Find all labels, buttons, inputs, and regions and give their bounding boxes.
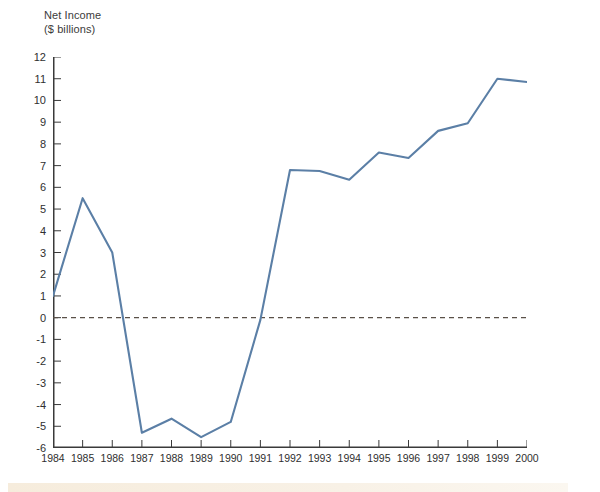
y-tick-label: 10	[18, 95, 46, 106]
line-chart-svg	[53, 57, 527, 448]
x-tick-label: 2000	[515, 452, 538, 465]
x-tick-label: 1999	[486, 452, 509, 465]
x-tick-label: 1993	[308, 452, 331, 465]
x-tick-label: 1990	[219, 452, 242, 465]
y-tick-label: 9	[18, 117, 46, 128]
x-tick-label: 1992	[278, 452, 301, 465]
y-tick-label: -3	[18, 377, 46, 388]
y-tick-label: 6	[18, 182, 46, 193]
x-tick-label: 1991	[249, 452, 272, 465]
y-tick-label: -1	[18, 334, 46, 345]
y-tick-label: 11	[18, 73, 46, 84]
x-tick-label: 1997	[426, 452, 449, 465]
y-tick-label: -5	[18, 421, 46, 432]
x-tick-label: 1985	[71, 452, 94, 465]
y-tick-label: 1	[18, 290, 46, 301]
y-tick-label: 4	[18, 225, 46, 236]
x-tick-label: 1987	[130, 452, 153, 465]
x-tick-label: 1984	[41, 452, 64, 465]
axis-tick-marks	[53, 57, 527, 448]
y-tick-label: 8	[18, 138, 46, 149]
y-tick-label: 0	[18, 312, 46, 323]
plot-area	[53, 57, 527, 448]
net-income-series-line	[53, 79, 527, 437]
x-tick-label: 1986	[101, 452, 124, 465]
chart-title-line-2: ($ billions)	[44, 23, 101, 37]
y-tick-label: 5	[18, 204, 46, 215]
y-tick-label: -4	[18, 399, 46, 410]
chart-title-line-1: Net Income	[44, 9, 101, 23]
x-tick-label: 1995	[367, 452, 390, 465]
chart-title: Net Income ($ billions)	[44, 9, 101, 36]
y-tick-label: 3	[18, 247, 46, 258]
x-tick-label: 1988	[160, 452, 183, 465]
y-tick-label: 12	[18, 52, 46, 63]
y-axis-tick-labels: 1211109876543210-1-2-3-4-5-6	[16, 57, 46, 448]
x-tick-label: 1996	[397, 452, 420, 465]
x-axis-tick-labels: 1984198519861987198819891990199119921993…	[53, 452, 527, 468]
y-tick-label: -2	[18, 356, 46, 367]
y-tick-label: 7	[18, 160, 46, 171]
x-tick-label: 1998	[456, 452, 479, 465]
figure-caption-band	[8, 483, 568, 492]
x-tick-label: 1989	[189, 452, 212, 465]
y-tick-label: 2	[18, 269, 46, 280]
net-income-chart-figure: Net Income ($ billions) 1211109876543210…	[0, 0, 600, 492]
x-tick-label: 1994	[338, 452, 361, 465]
